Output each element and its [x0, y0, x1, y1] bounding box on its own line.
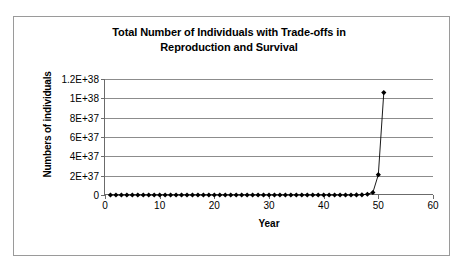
- x-axis-tick-label: 0: [102, 200, 108, 211]
- data-point-marker: [173, 192, 178, 197]
- data-point-marker: [321, 192, 326, 197]
- data-point-marker: [250, 192, 255, 197]
- chart-title: Total Number of Individuals with Trade-o…: [54, 25, 404, 55]
- data-point-marker: [272, 192, 277, 197]
- x-axis-tick-label: 60: [427, 200, 438, 211]
- x-axis-tick-label: 10: [154, 200, 165, 211]
- x-axis-tick: [433, 195, 434, 199]
- data-point-marker: [277, 192, 282, 197]
- data-point-marker: [168, 192, 173, 197]
- data-point-marker: [283, 192, 288, 197]
- data-point-marker: [316, 192, 321, 197]
- data-point-marker: [217, 192, 222, 197]
- data-point-marker: [365, 192, 370, 197]
- x-axis-tick: [105, 195, 106, 199]
- chart-title-line-2: Reproduction and Survival: [54, 40, 404, 55]
- x-axis-tick: [378, 195, 379, 199]
- data-point-marker: [124, 192, 129, 197]
- y-axis-title: Numbers of individuals: [42, 50, 53, 200]
- data-point-marker: [119, 192, 124, 197]
- data-point-marker: [157, 192, 162, 197]
- data-point-marker: [228, 192, 233, 197]
- data-point-marker: [130, 192, 135, 197]
- data-point-marker: [299, 192, 304, 197]
- data-point-marker: [239, 192, 244, 197]
- x-axis-tick-label: 30: [263, 200, 274, 211]
- data-point-marker: [152, 192, 157, 197]
- data-point-marker: [294, 192, 299, 197]
- data-point-marker: [141, 192, 146, 197]
- data-point-marker: [348, 192, 353, 197]
- data-point-marker: [113, 192, 118, 197]
- data-point-marker: [179, 192, 184, 197]
- data-point-marker: [332, 192, 337, 197]
- x-axis-tick-label: 40: [318, 200, 329, 211]
- x-axis-tick-label: 50: [373, 200, 384, 211]
- data-point-marker: [206, 192, 211, 197]
- data-point-marker: [245, 192, 250, 197]
- data-point-marker: [212, 192, 217, 197]
- data-point-marker: [305, 192, 310, 197]
- data-point-marker: [135, 192, 140, 197]
- data-point-marker: [359, 192, 364, 197]
- data-point-marker: [234, 192, 239, 197]
- y-axis-tick-label: 6E+37: [70, 132, 99, 143]
- data-point-marker: [146, 192, 151, 197]
- data-point-marker: [190, 192, 195, 197]
- y-axis-tick-label: 4E+37: [70, 151, 99, 162]
- data-point-marker: [376, 172, 381, 177]
- data-point-marker: [354, 192, 359, 197]
- data-point-marker: [201, 192, 206, 197]
- data-point-marker: [370, 190, 375, 195]
- data-point-marker: [310, 192, 315, 197]
- data-point-marker: [266, 192, 271, 197]
- data-point-marker: [108, 192, 113, 197]
- y-axis-tick-label: 1E+38: [70, 93, 99, 104]
- plot-area: 02E+374E+376E+378E+371E+381.2E+38 010203…: [105, 79, 433, 195]
- chart-title-line-1: Total Number of Individuals with Trade-o…: [54, 25, 404, 40]
- x-axis-tick-label: 20: [209, 200, 220, 211]
- y-axis-tick-label: 8E+37: [70, 112, 99, 123]
- data-point-marker: [195, 192, 200, 197]
- y-axis-tick-label: 1.2E+38: [61, 74, 99, 85]
- data-point-marker: [327, 192, 332, 197]
- y-axis-tick-label: 0: [93, 190, 99, 201]
- data-point-marker: [163, 192, 168, 197]
- data-series-layer: [105, 79, 433, 195]
- data-point-marker: [261, 192, 266, 197]
- data-point-marker: [255, 192, 260, 197]
- data-point-marker: [337, 192, 342, 197]
- x-axis-title: Year: [105, 218, 433, 229]
- y-axis-tick-label: 2E+37: [70, 170, 99, 181]
- series-line: [110, 93, 383, 195]
- data-point-marker: [288, 192, 293, 197]
- chart-frame: Total Number of Individuals with Trade-o…: [13, 16, 450, 256]
- data-point-marker: [223, 192, 228, 197]
- data-point-marker: [184, 192, 189, 197]
- data-point-marker: [381, 90, 386, 95]
- data-point-marker: [343, 192, 348, 197]
